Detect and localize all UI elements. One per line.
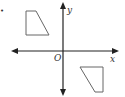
x-axis-left-arrow-icon [11,48,18,54]
x-axis-label: x [110,54,115,64]
y-axis-label: y [66,5,73,15]
quadrilateral-upper-left [26,11,49,35]
y-axis [60,2,66,96]
quadrilateral-lower-right [80,67,103,92]
y-axis-up-arrow-icon [60,2,66,9]
y-axis-down-arrow-icon [60,89,66,96]
bullet-marker: • [0,7,4,15]
coordinate-diagram: • y x O [0,0,125,97]
origin-label: O [54,53,62,63]
x-axis [11,48,119,54]
